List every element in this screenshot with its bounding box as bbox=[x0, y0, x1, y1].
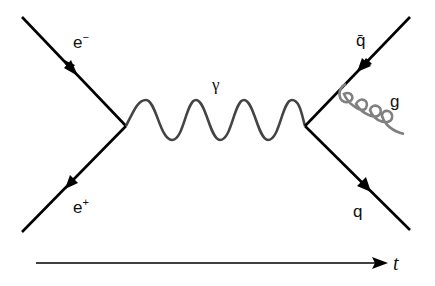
photon-line bbox=[126, 100, 305, 140]
antiquark-label: q̄ bbox=[356, 31, 365, 50]
quark-label: q bbox=[353, 202, 362, 221]
feynman-diagram: e− e+ γ q̄ q g t bbox=[0, 0, 435, 286]
time-axis-label: t bbox=[393, 252, 399, 274]
time-axis bbox=[36, 257, 388, 269]
photon-label: γ bbox=[211, 75, 220, 94]
positron-label: e+ bbox=[73, 196, 89, 217]
electron-label: e− bbox=[73, 31, 89, 52]
gluon-label: g bbox=[390, 92, 399, 111]
